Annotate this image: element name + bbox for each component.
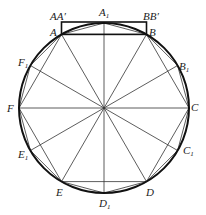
label-C1: C1 [183,144,194,158]
label-C: C [191,101,199,113]
label-B: B [149,26,156,38]
label-D: D [145,186,154,198]
label-D1: D1 [98,197,110,211]
dodecagon-diagram: AA′ BB′ A B C D E F A1 B1 C1 D1 E1 F1 [0,0,206,215]
label-BB-prime: BB′ [143,10,159,22]
label-A1: A1 [98,6,109,20]
label-E: E [55,186,63,198]
label-AA-prime: AA′ [49,10,66,22]
label-F: F [6,102,14,114]
label-F1: F1 [17,56,28,70]
label-B1: B1 [179,60,189,74]
label-E1: E1 [17,148,28,162]
label-A: A [49,26,57,38]
